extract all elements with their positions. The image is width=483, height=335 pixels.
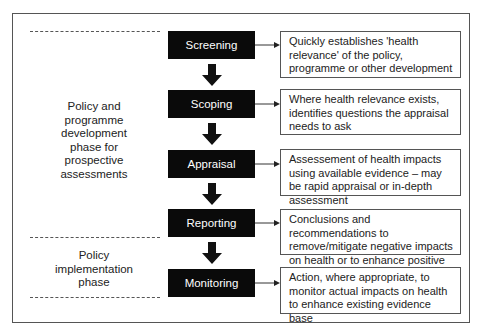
right-arrow-icon (255, 159, 280, 169)
right-arrow-icon (255, 278, 280, 288)
phase-label-line: development (40, 127, 148, 141)
phase-divider-top (30, 31, 160, 32)
stage-monitoring: Monitoring (168, 269, 255, 297)
stage-scoping: Scoping (168, 90, 255, 118)
phase-label-line: phase for (40, 141, 148, 155)
phase-label-line: Policy and (40, 100, 148, 114)
phase-label-line: Policy (40, 249, 148, 263)
stage-appraisal: Appraisal (168, 150, 255, 178)
phase-label-line: phase (40, 276, 148, 290)
down-arrow-icon (202, 242, 222, 264)
down-arrow-icon (202, 183, 222, 205)
phase-label-development: Policy and programme development phase f… (40, 100, 148, 181)
right-arrow-icon (255, 99, 280, 109)
stage-label: Monitoring (185, 277, 239, 289)
phase-label-implementation: Policy implementation phase (40, 249, 148, 290)
stage-label: Reporting (187, 217, 237, 229)
description-scoping: Where health relevance exists, identifie… (280, 89, 461, 135)
phase-label-line: implementation (40, 263, 148, 277)
stage-label: Screening (186, 39, 238, 51)
right-arrow-icon (255, 40, 280, 50)
phase-label-line: programme (40, 114, 148, 128)
phase-label-line: assessments (40, 168, 148, 182)
description-screening: Quickly establishes 'health relevance' o… (280, 31, 461, 78)
stage-label: Appraisal (188, 158, 236, 170)
phase-divider-middle (30, 237, 160, 238)
phase-divider-bottom (30, 297, 160, 298)
stage-reporting: Reporting (168, 209, 255, 237)
down-arrow-icon (202, 64, 222, 86)
description-appraisal: Assessement of health impacts using avai… (280, 149, 461, 196)
down-arrow-icon (202, 123, 222, 145)
stage-screening: Screening (168, 31, 255, 59)
stage-label: Scoping (191, 98, 233, 110)
phase-label-line: prospective (40, 154, 148, 168)
right-arrow-icon (255, 218, 280, 228)
description-monitoring: Action, where appropriate, to monitor ac… (280, 267, 461, 314)
description-reporting: Conclusions and recommendations to remov… (280, 209, 461, 255)
